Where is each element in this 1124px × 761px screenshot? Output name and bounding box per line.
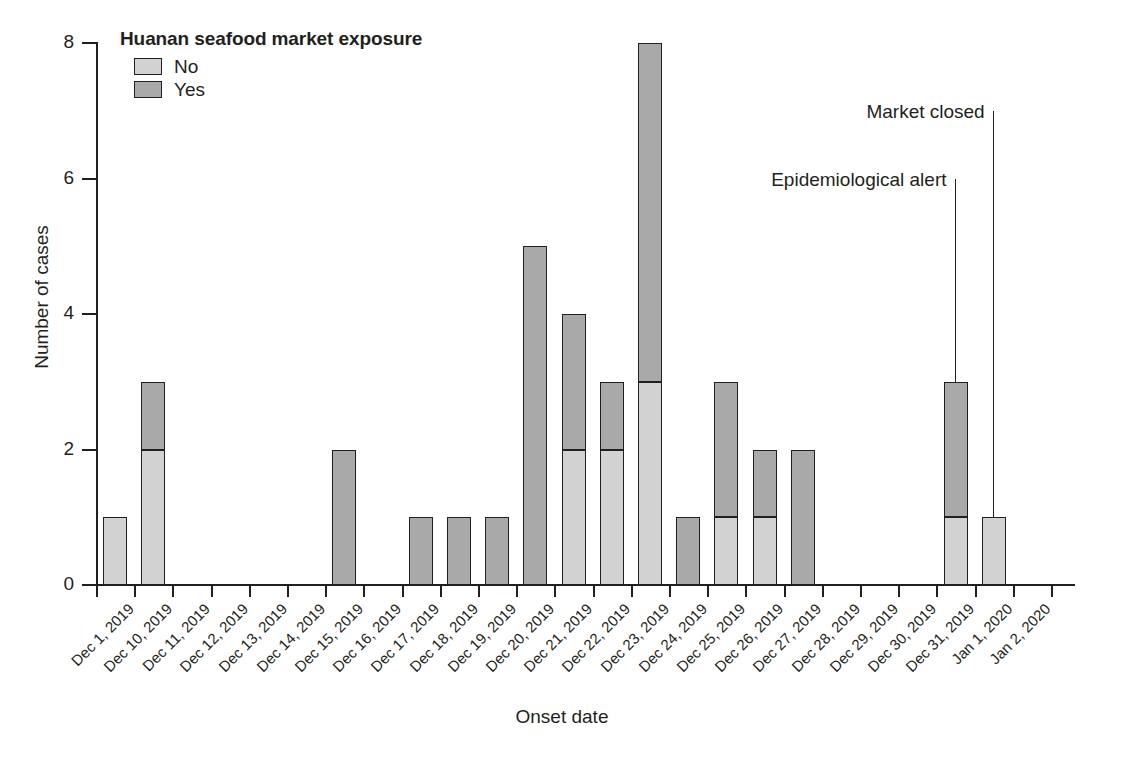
bar-segment-no bbox=[714, 517, 738, 585]
x-tick-4 bbox=[249, 586, 251, 597]
epidemic-curve-figure: Number of cases 02468 Dec 1, 2019Dec 10,… bbox=[0, 0, 1124, 761]
y-tick-0 bbox=[82, 584, 96, 586]
legend-swatch-no bbox=[134, 58, 162, 75]
bar-segment-yes bbox=[714, 382, 738, 518]
x-tick-21 bbox=[898, 586, 900, 597]
bar-segment-yes bbox=[600, 382, 624, 450]
y-tick-label-8: 8 bbox=[48, 32, 74, 51]
y-tick-label-0: 0 bbox=[48, 574, 74, 593]
bar-segment-no bbox=[982, 517, 1006, 585]
y-tick-label-6: 6 bbox=[48, 168, 74, 187]
legend-item-yes[interactable]: Yes bbox=[134, 80, 422, 99]
x-tick-5 bbox=[287, 586, 289, 597]
x-tick-2 bbox=[172, 586, 174, 597]
bar-segment-no bbox=[141, 450, 165, 586]
x-tick-24 bbox=[1013, 586, 1015, 597]
bar-segment-no bbox=[600, 450, 624, 586]
x-tick-17 bbox=[745, 586, 747, 597]
bar-segment-yes bbox=[141, 382, 165, 450]
x-tick-23 bbox=[975, 586, 977, 597]
x-tick-16 bbox=[707, 586, 709, 597]
y-axis-title: Number of cases bbox=[31, 187, 53, 407]
annotation-line-epidemiological-alert bbox=[955, 179, 957, 382]
x-axis-title: Onset date bbox=[0, 706, 1124, 728]
bar-segment-yes bbox=[753, 450, 777, 518]
x-tick-25 bbox=[1051, 586, 1053, 597]
x-tick-12 bbox=[554, 586, 556, 597]
bar-segment-yes bbox=[562, 314, 586, 450]
y-tick-4 bbox=[82, 313, 96, 315]
x-tick-0 bbox=[96, 586, 98, 597]
bar-segment-yes bbox=[485, 517, 509, 585]
annotation-label-market-closed: Market closed bbox=[866, 101, 984, 123]
annotation-line-market-closed bbox=[993, 111, 995, 518]
x-tick-6 bbox=[325, 586, 327, 597]
x-tick-10 bbox=[478, 586, 480, 597]
bar-segment-yes bbox=[638, 43, 662, 382]
y-tick-label-2: 2 bbox=[48, 439, 74, 458]
y-tick-6 bbox=[82, 178, 96, 180]
bar-segment-no bbox=[944, 517, 968, 585]
x-tick-14 bbox=[631, 586, 633, 597]
bar-segment-yes bbox=[523, 246, 547, 585]
x-tick-3 bbox=[211, 586, 213, 597]
legend-label-yes: Yes bbox=[174, 80, 205, 99]
x-tick-20 bbox=[860, 586, 862, 597]
plot-area bbox=[96, 43, 1074, 585]
x-tick-19 bbox=[822, 586, 824, 597]
x-tick-11 bbox=[516, 586, 518, 597]
y-tick-8 bbox=[82, 42, 96, 44]
x-tick-7 bbox=[363, 586, 365, 597]
bar-segment-yes bbox=[791, 450, 815, 586]
x-tick-22 bbox=[936, 586, 938, 597]
legend-swatch-yes bbox=[134, 81, 162, 98]
legend-label-no: No bbox=[174, 57, 198, 76]
x-tick-13 bbox=[593, 586, 595, 597]
legend: Huanan seafood market exposure No Yes bbox=[120, 28, 422, 103]
x-tick-1 bbox=[134, 586, 136, 597]
annotation-label-epidemiological-alert: Epidemiological alert bbox=[771, 169, 946, 191]
x-tick-15 bbox=[669, 586, 671, 597]
bar-segment-yes bbox=[409, 517, 433, 585]
legend-title: Huanan seafood market exposure bbox=[120, 28, 422, 50]
y-tick-label-4: 4 bbox=[48, 303, 74, 322]
bar-segment-yes bbox=[447, 517, 471, 585]
x-tick-18 bbox=[784, 586, 786, 597]
x-tick-9 bbox=[440, 586, 442, 597]
bar-segment-no bbox=[562, 450, 586, 586]
x-tick-8 bbox=[402, 586, 404, 597]
bar-segment-yes bbox=[944, 382, 968, 518]
bar-segment-no bbox=[103, 517, 127, 585]
legend-item-no[interactable]: No bbox=[134, 57, 422, 76]
bar-segment-no bbox=[638, 382, 662, 585]
y-tick-2 bbox=[82, 449, 96, 451]
bar-segment-yes bbox=[676, 517, 700, 585]
bar-segment-yes bbox=[332, 450, 356, 586]
bar-segment-no bbox=[753, 517, 777, 585]
